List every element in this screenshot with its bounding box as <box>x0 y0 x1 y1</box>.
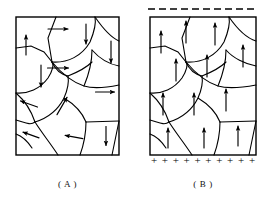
panel-b-bottom-plus-row: ++++++++++ <box>151 154 255 166</box>
plus-sign: + <box>216 154 222 166</box>
panel-a <box>16 17 119 155</box>
plus-sign: + <box>151 154 157 166</box>
plus-sign: + <box>184 154 190 166</box>
plus-sign: + <box>205 154 211 166</box>
plus-sign: + <box>162 154 168 166</box>
panel-b-border <box>150 17 256 155</box>
panel-b-caption: ( B ) <box>150 179 256 189</box>
panel-b: ++++++++++ <box>148 9 256 166</box>
plus-sign: + <box>194 154 200 166</box>
figure-root: ++++++++++ ( A ) ( B ) <box>0 0 269 210</box>
plus-sign: + <box>249 154 255 166</box>
panel-a-caption: ( A ) <box>16 179 119 189</box>
plus-sign: + <box>227 154 233 166</box>
plus-sign: + <box>173 154 179 166</box>
plus-sign: + <box>238 154 244 166</box>
